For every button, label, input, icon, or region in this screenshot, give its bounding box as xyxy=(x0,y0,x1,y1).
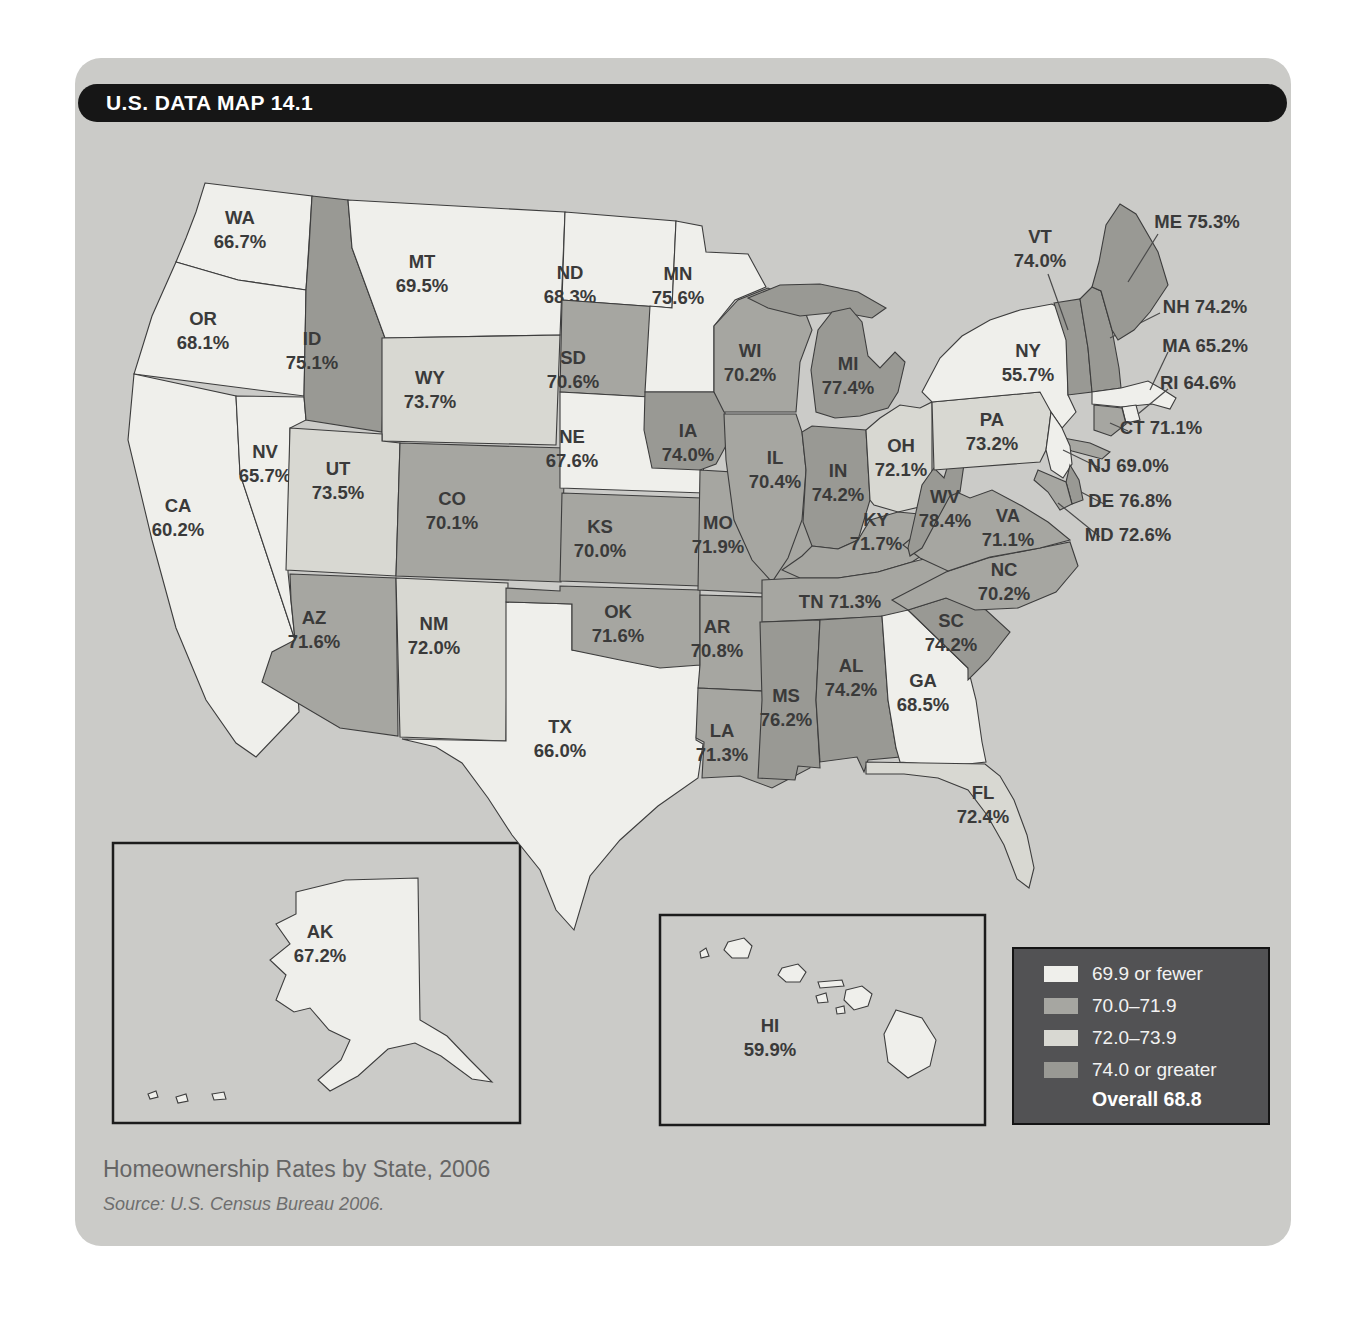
hi-inset-box xyxy=(660,915,985,1125)
state-hi-shape xyxy=(700,948,709,958)
state-label-or: OR xyxy=(189,308,217,329)
aleutian-islands-shape xyxy=(212,1092,226,1100)
legend-swatch-3 xyxy=(1044,1030,1078,1046)
state-value-tx: 66.0% xyxy=(534,740,586,761)
state-hi-shape xyxy=(844,986,872,1010)
state-value-or: 68.1% xyxy=(177,332,229,353)
state-label-ms: MS xyxy=(772,685,800,706)
state-value-ny: 55.7% xyxy=(1002,364,1054,385)
state-label-mi: MI xyxy=(838,353,859,374)
state-label-ut: UT xyxy=(326,458,351,479)
state-nm-shape xyxy=(396,578,508,741)
state-label-pa: PA xyxy=(980,409,1004,430)
state-label-ny: NY xyxy=(1015,340,1041,361)
legend-row-3: 72.0–73.9 xyxy=(1044,1030,1268,1046)
state-label-nh: NH 74.2% xyxy=(1163,296,1247,317)
state-value-id: 75.1% xyxy=(286,352,338,373)
state-value-pa: 73.2% xyxy=(966,433,1018,454)
state-label-tx: TX xyxy=(548,716,572,737)
state-label-oh: OH xyxy=(887,435,915,456)
state-label-nv: NV xyxy=(252,441,278,462)
state-label-fl: FL xyxy=(972,782,995,803)
legend-label-4: 74.0 or greater xyxy=(1092,1059,1217,1081)
state-value-ak: 67.2% xyxy=(294,945,346,966)
state-value-ia: 74.0% xyxy=(662,444,714,465)
state-value-vt: 74.0% xyxy=(1014,250,1066,271)
state-value-ky: 71.7% xyxy=(850,533,902,554)
state-value-ms: 76.2% xyxy=(760,709,812,730)
state-value-il: 70.4% xyxy=(749,471,801,492)
state-co-shape xyxy=(396,443,565,582)
state-value-az: 71.6% xyxy=(288,631,340,652)
state-label-hi: HI xyxy=(761,1015,780,1036)
state-label-nj: NJ 69.0% xyxy=(1087,455,1168,476)
legend-row-1: 69.9 or fewer xyxy=(1044,966,1268,982)
state-label-ky: KY xyxy=(863,509,889,530)
state-label-al: AL xyxy=(839,655,864,676)
state-value-co: 70.1% xyxy=(426,512,478,533)
figure-caption: Homeownership Rates by State, 2006 xyxy=(103,1156,490,1183)
state-value-oh: 72.1% xyxy=(875,459,927,480)
state-hi-shape xyxy=(778,964,806,982)
legend-label-2: 70.0–71.9 xyxy=(1092,995,1177,1017)
legend-overall: Overall 68.8 xyxy=(1092,1088,1268,1111)
legend-row-4: 74.0 or greater xyxy=(1044,1062,1268,1078)
state-hi-shape xyxy=(816,993,828,1003)
state-mt-shape xyxy=(348,200,565,338)
state-label-co: CO xyxy=(438,488,466,509)
state-label-sd: SD xyxy=(560,347,586,368)
state-value-mt: 69.5% xyxy=(396,275,448,296)
legend-label-3: 72.0–73.9 xyxy=(1092,1027,1177,1049)
state-value-mi: 77.4% xyxy=(822,377,874,398)
state-label-sc: SC xyxy=(938,610,964,631)
state-value-fl: 72.4% xyxy=(957,806,1009,827)
state-label-wi: WI xyxy=(739,340,762,361)
state-pa-shape xyxy=(932,392,1052,470)
state-label-wv: WV xyxy=(930,486,960,507)
state-value-ar: 70.8% xyxy=(691,640,743,661)
state-label-ia: IA xyxy=(679,420,698,441)
state-wy-shape xyxy=(382,335,560,445)
aleutian-islands-shape xyxy=(176,1094,188,1103)
state-label-ok: OK xyxy=(604,601,632,622)
state-value-nv: 65.7% xyxy=(239,465,291,486)
legend-swatch-1 xyxy=(1044,966,1078,982)
map-legend: 69.9 or fewer70.0–71.972.0–73.974.0 or g… xyxy=(1012,947,1270,1125)
state-value-sc: 74.2% xyxy=(925,634,977,655)
state-label-ak: AK xyxy=(307,921,334,942)
state-label-wy: WY xyxy=(415,367,445,388)
legend-swatch-4 xyxy=(1044,1062,1078,1078)
state-label-ri: RI 64.6% xyxy=(1160,372,1236,393)
state-value-va: 71.1% xyxy=(982,529,1034,550)
state-label-wa: WA xyxy=(225,207,255,228)
state-hi-shape xyxy=(884,1010,936,1078)
state-label-ne: NE xyxy=(559,426,585,447)
legend-row-2: 70.0–71.9 xyxy=(1044,998,1268,1014)
state-label-mn: MN xyxy=(664,263,693,284)
state-label-mo: MO xyxy=(703,512,733,533)
state-label-nm: NM xyxy=(420,613,449,634)
state-value-ca: 60.2% xyxy=(152,519,204,540)
state-hi-shape xyxy=(836,1006,845,1014)
state-label-ar: AR xyxy=(704,616,731,637)
state-label-nd: ND xyxy=(557,262,584,283)
figure-source: Source: U.S. Census Bureau 2006. xyxy=(103,1194,384,1215)
state-hi-shape xyxy=(724,938,752,958)
state-label-ks: KS xyxy=(587,516,613,537)
state-label-mt: MT xyxy=(409,251,436,272)
state-label-va: VA xyxy=(996,505,1020,526)
state-value-wy: 73.7% xyxy=(404,391,456,412)
state-label-de: DE 76.8% xyxy=(1088,490,1171,511)
state-label-ca: CA xyxy=(165,495,192,516)
legend-swatch-2 xyxy=(1044,998,1078,1014)
state-label-ct: CT 71.1% xyxy=(1120,417,1202,438)
state-value-nc: 70.2% xyxy=(978,583,1030,604)
state-value-ne: 67.6% xyxy=(546,450,598,471)
state-value-hi: 59.9% xyxy=(744,1039,796,1060)
state-value-mo: 71.9% xyxy=(692,536,744,557)
state-value-wv: 78.4% xyxy=(919,510,971,531)
state-label-ga: GA xyxy=(909,670,937,691)
aleutian-islands-shape xyxy=(148,1091,158,1099)
state-label-tn: TN 71.3% xyxy=(799,591,881,612)
state-value-nm: 72.0% xyxy=(408,637,460,658)
